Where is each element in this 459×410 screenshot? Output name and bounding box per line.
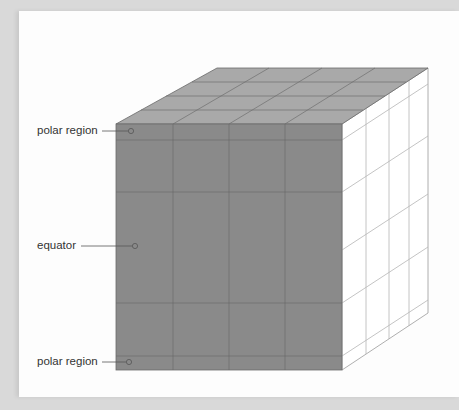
marker-bottom-polar (126, 359, 131, 364)
marker-top-polar (128, 128, 133, 133)
label-equator: equator (37, 239, 76, 251)
label-top-polar-region: polar region (37, 124, 98, 136)
marker-equator (132, 243, 137, 248)
label-bottom-polar-region: polar region (37, 355, 98, 367)
